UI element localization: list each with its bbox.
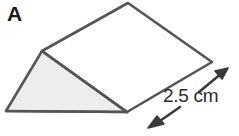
triangular-prism-drawing	[0, 0, 239, 136]
dimension-label: 2.5 cm	[163, 86, 218, 105]
figure-container: A 2.5 cm	[0, 0, 239, 136]
shape-letter-label: A	[7, 3, 22, 24]
front-bottom-edge	[6, 111, 127, 112]
dimension-arrow-lower-left-icon	[148, 107, 180, 128]
